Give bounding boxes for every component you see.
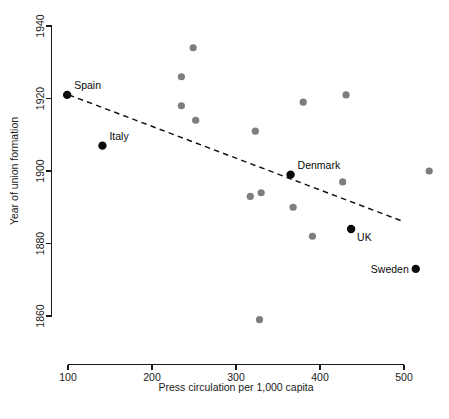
point-label-sweden: Sweden [371, 263, 409, 275]
x-tick-label: 500 [395, 371, 413, 383]
x-tick-label: 400 [311, 371, 329, 383]
data-point[interactable] [192, 117, 199, 124]
y-axis-title: Year of union formation [8, 117, 20, 225]
point-label-italy: Italy [109, 130, 129, 142]
data-point[interactable] [252, 128, 259, 135]
scatter-chart-figure: 18601880190019201940 100200300400500 Spa… [0, 0, 449, 419]
data-point[interactable] [339, 178, 346, 185]
y-tick-label: 1880 [34, 232, 46, 256]
plot-canvas: 18601880190019201940 100200300400500 Spa… [0, 0, 449, 419]
y-tick-label: 1860 [34, 304, 46, 328]
data-point[interactable] [178, 73, 185, 80]
data-point[interactable] [256, 316, 263, 323]
x-tick-label: 100 [59, 371, 77, 383]
data-point-highlighted[interactable] [98, 141, 106, 149]
y-axis-ticks: 18601880190019201940 [34, 14, 52, 328]
data-point[interactable] [309, 233, 316, 240]
data-point[interactable] [258, 189, 265, 196]
point-labels-layer: SpainItalyDenmarkUKSweden [74, 79, 409, 275]
trend-line [69, 95, 404, 222]
y-tick-label: 1900 [34, 159, 46, 183]
trend-line-layer [69, 95, 404, 222]
data-point-highlighted[interactable] [286, 170, 294, 178]
x-axis-title: Press circulation per 1,000 capita [158, 381, 313, 393]
data-point[interactable] [426, 167, 433, 174]
point-label-spain: Spain [74, 79, 101, 91]
data-points-layer [63, 44, 433, 323]
data-point[interactable] [342, 91, 349, 98]
y-tick-label: 1920 [34, 87, 46, 111]
data-point[interactable] [190, 44, 197, 51]
data-point-highlighted[interactable] [63, 91, 71, 99]
y-tick-label: 1940 [34, 14, 46, 38]
data-point[interactable] [247, 193, 254, 200]
data-point-highlighted[interactable] [347, 225, 355, 233]
data-point[interactable] [178, 102, 185, 109]
data-point[interactable] [300, 99, 307, 106]
point-label-denmark: Denmark [298, 159, 341, 171]
data-point[interactable] [290, 204, 297, 211]
point-label-uk: UK [357, 231, 372, 243]
data-point-highlighted[interactable] [412, 265, 420, 273]
